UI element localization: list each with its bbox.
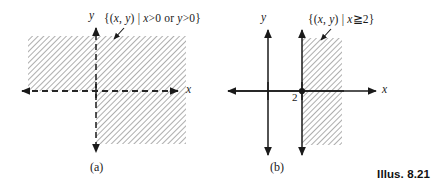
panel-b: y x 2 {(x, y) | x≧2} (b) <box>218 0 436 188</box>
y-axis-label-a: y <box>89 9 94 21</box>
set-builder-label-b: {(x, y) | x≧2} <box>308 12 374 26</box>
point-2-0 <box>299 88 305 94</box>
sub-caption-b: (b) <box>270 160 284 175</box>
panel-a: y x {(x, y) | x>0 or y>0} (a) <box>0 0 218 188</box>
shaded-region-a <box>28 36 186 144</box>
illustration-figure: y x {(x, y) | x>0 or y>0} (a) <box>0 0 436 188</box>
x-axis-label-a: x <box>186 83 191 95</box>
sub-caption-a: (a) <box>90 160 103 175</box>
illustration-caption: Illus. 8.21 <box>377 168 430 180</box>
x-axis-label-b: x <box>382 83 387 95</box>
panel-b-graph <box>218 0 436 188</box>
tick-label-2: 2 <box>292 91 298 103</box>
y-axis-label-b: y <box>261 11 266 23</box>
set-builder-label-a: {(x, y) | x>0 or y>0} <box>104 12 201 24</box>
